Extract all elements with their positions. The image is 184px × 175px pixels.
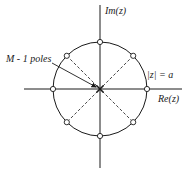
zero-marker-270: [97, 133, 102, 138]
zero-marker-135: [64, 53, 69, 58]
zero-marker-225: [64, 120, 69, 125]
zero-marker-90: [97, 39, 102, 44]
poles-label: M - 1 poles: [5, 53, 51, 64]
zero-marker-0: [144, 86, 149, 91]
poles-pointer-arrow: [52, 63, 96, 87]
zero-marker-45: [131, 53, 136, 58]
imaginary-axis-label: Im(z): [104, 5, 127, 17]
zero-marker-180: [50, 86, 55, 91]
zero-marker-315: [131, 120, 136, 125]
real-axis-label: Re(z): [157, 93, 180, 105]
pole-zero-diagram: Im(z) Re(z) |z| = a M - 1 poles: [0, 0, 184, 175]
circle-label: |z| = a: [147, 69, 173, 80]
